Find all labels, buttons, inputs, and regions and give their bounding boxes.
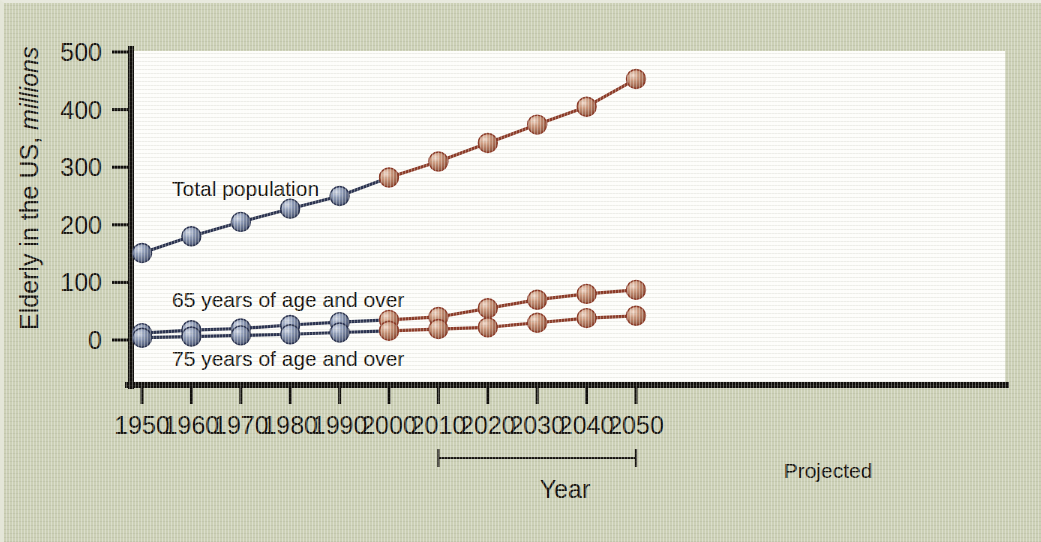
y-tick-label: 100: [60, 268, 102, 296]
series-label-65-and-over: 65 years of age and over: [172, 288, 404, 311]
x-tick-label: 2000: [361, 411, 417, 439]
data-point-marker: [429, 320, 448, 339]
data-point-marker: [478, 299, 497, 318]
y-tick-label: 200: [60, 211, 102, 239]
x-tick-label: 2010: [411, 411, 467, 439]
data-point-marker: [627, 306, 646, 325]
data-point-marker: [478, 134, 497, 153]
x-tick-label: 1970: [213, 411, 269, 439]
x-tick-label: 1950: [114, 411, 170, 439]
x-tick-label: 1990: [312, 411, 368, 439]
data-point-marker: [380, 168, 399, 187]
x-tick-label: 2030: [509, 411, 565, 439]
data-point-marker: [133, 244, 152, 263]
x-tick-label: 1980: [262, 411, 318, 439]
x-tick-label: 2020: [460, 411, 516, 439]
data-point-marker: [330, 187, 349, 206]
data-point-marker: [577, 309, 596, 328]
y-axis-title-emphasis: millions: [15, 47, 43, 130]
data-point-marker: [528, 313, 547, 332]
y-tick-label: 400: [60, 96, 102, 124]
data-point-marker: [528, 290, 547, 309]
data-point-marker: [133, 328, 152, 347]
data-point-marker: [182, 327, 201, 346]
y-axis-title: Elderly in the US, millions: [15, 47, 43, 330]
data-point-marker: [478, 318, 497, 337]
data-point-marker: [627, 280, 646, 299]
series-label-total-population: Total population: [172, 177, 319, 200]
series-label-75-and-over: 75 years of age and over: [172, 347, 404, 370]
population-projection-chart: 0100200300400500 19501960197019801990200…: [0, 0, 1041, 542]
x-tick-label: 2050: [608, 411, 664, 439]
y-tick-label: 300: [60, 153, 102, 181]
figure-container: 0100200300400500 19501960197019801990200…: [0, 0, 1041, 542]
x-tick-label: 1960: [164, 411, 220, 439]
data-point-marker: [577, 284, 596, 303]
x-axis-ticks: 1950196019701980199020002010202020302040…: [114, 385, 664, 439]
data-point-marker: [231, 326, 250, 345]
data-point-marker: [281, 199, 300, 218]
y-axis-ticks: 0100200300400500: [60, 38, 131, 354]
projected-bracket: [438, 449, 636, 467]
y-tick-label: 0: [88, 326, 102, 354]
data-point-marker: [627, 70, 646, 89]
x-axis-title: Year: [540, 475, 591, 503]
y-axis-title-main: Elderly in the US,: [15, 130, 43, 330]
data-point-marker: [231, 212, 250, 231]
data-point-marker: [380, 321, 399, 340]
data-point-marker: [330, 323, 349, 342]
y-tick-label: 500: [60, 38, 102, 66]
data-point-marker: [577, 97, 596, 116]
data-point-marker: [429, 152, 448, 171]
data-point-marker: [528, 115, 547, 134]
x-tick-label: 2040: [559, 411, 615, 439]
data-point-marker: [281, 325, 300, 344]
projected-label: Projected: [784, 459, 873, 482]
data-point-marker: [182, 227, 201, 246]
